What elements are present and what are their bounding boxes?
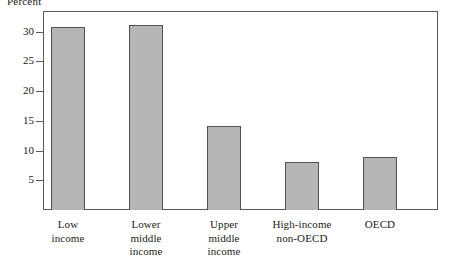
bar: [207, 126, 241, 210]
x-axis-category-label: Low income: [23, 218, 113, 245]
bar: [363, 157, 397, 210]
y-axis-tick-mark: [36, 151, 43, 152]
x-axis-category-label: Lower middle income: [101, 218, 191, 259]
x-axis-category-label: High-income non-OECD: [257, 218, 347, 245]
y-axis-tick-mark: [36, 91, 43, 92]
bar: [129, 25, 163, 210]
bar: [285, 162, 319, 210]
x-axis-category-label: Upper middle income: [179, 218, 269, 259]
y-axis-tick-mark: [36, 180, 43, 181]
y-axis-tick-mark: [36, 121, 43, 122]
y-axis-tick-mark: [36, 61, 43, 62]
bar-chart: Percent 51015202530 Low incomeLower midd…: [0, 0, 451, 265]
y-axis-tick-mark: [36, 32, 43, 33]
bar: [51, 27, 85, 210]
x-axis-category-label: OECD: [335, 218, 425, 232]
